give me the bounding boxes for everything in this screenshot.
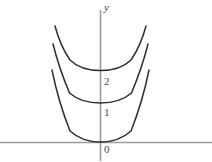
parabola-family-figure: y 2 1 0: [0, 0, 212, 162]
y-tick-label-2: 2: [104, 76, 110, 87]
origin-label-0: 0: [104, 144, 110, 155]
y-tick-label-1: 1: [104, 107, 110, 118]
y-axis-label: y: [104, 2, 109, 13]
